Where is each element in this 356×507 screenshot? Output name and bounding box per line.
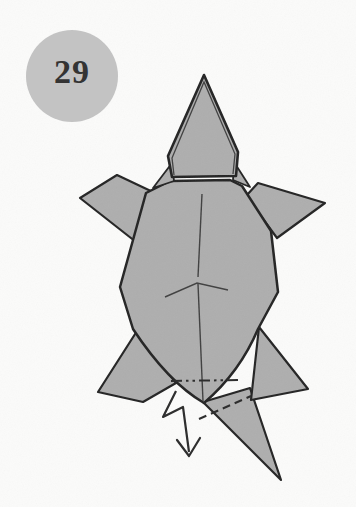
- book-page: 29: [0, 0, 356, 507]
- step-number-badge: 29: [26, 30, 118, 122]
- step-number: 29: [54, 53, 90, 91]
